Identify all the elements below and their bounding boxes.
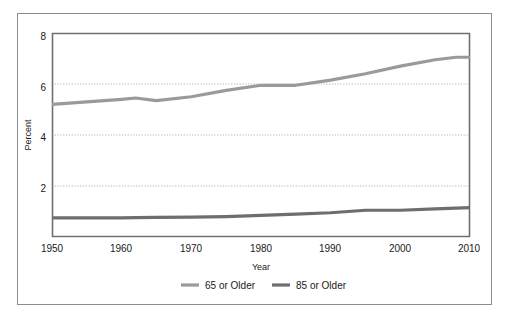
legend-item-65-or-older[interactable]: 65 or Older [181, 280, 256, 291]
x-tick-label-1970: 1970 [180, 243, 203, 254]
legend-label-65-or-older: 65 or Older [205, 280, 256, 291]
y-tick-labels: 8 6 4 2 [40, 31, 46, 194]
y-tick-label-6: 6 [40, 82, 46, 93]
line-chart: 8 6 4 2 Percent 1950 1960 1970 1980 1990… [0, 0, 507, 320]
y-tick-label-4: 4 [40, 132, 46, 143]
series-65-or-older [52, 57, 470, 104]
line-65-or-older [52, 57, 470, 104]
y-tick-label-8: 8 [40, 31, 46, 42]
x-tick-label-2010: 2010 [458, 243, 481, 254]
x-tick-labels: 1950 1960 1970 1980 1990 2000 2010 [41, 243, 481, 254]
legend-item-85-or-older[interactable]: 85 or Older [272, 280, 347, 291]
series-85-or-older [52, 208, 470, 218]
x-tick-label-1980: 1980 [250, 243, 273, 254]
figure-container: 8 6 4 2 Percent 1950 1960 1970 1980 1990… [0, 0, 507, 320]
y-axis-title: Percent [23, 119, 33, 151]
y-tick-label-2: 2 [40, 183, 46, 194]
legend-label-85-or-older: 85 or Older [296, 280, 347, 291]
x-tick-label-2000: 2000 [389, 243, 412, 254]
x-tick-label-1950: 1950 [41, 243, 64, 254]
x-axis-title: Year [252, 262, 270, 272]
x-tick-label-1960: 1960 [110, 243, 133, 254]
chart-legend: 65 or Older 85 or Older [181, 280, 347, 291]
x-tick-label-1990: 1990 [319, 243, 342, 254]
line-85-or-older [52, 208, 470, 218]
